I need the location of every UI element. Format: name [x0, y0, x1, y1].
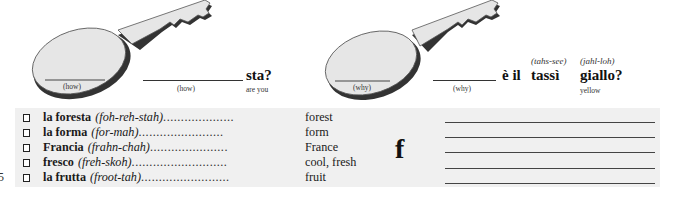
page-number: 5 — [0, 170, 4, 185]
vocab-pron: (frahn-chah) — [88, 140, 150, 155]
word-tassi: tassì — [531, 67, 559, 84]
key-label-right: (why) — [353, 83, 371, 92]
vocab-word: fresco — [43, 155, 74, 170]
vocab-meaning: cool, fresh — [305, 155, 356, 170]
leader-dots: ........................... — [132, 155, 228, 170]
vocab-meaning: fruit — [305, 170, 326, 185]
word-giallo: giallo? — [580, 67, 623, 84]
vocab-row: Francia (frahn-chah) ...................… — [23, 140, 228, 155]
vocab-word: Francia — [43, 140, 84, 155]
vocab-word: la forma — [43, 125, 87, 140]
blank-hint-right: (why) — [453, 84, 471, 93]
practice-line[interactable] — [445, 152, 655, 153]
practice-line[interactable] — [445, 122, 655, 123]
answer-blank-left[interactable] — [143, 80, 243, 81]
translation-yellow: yellow — [580, 86, 600, 95]
pron-tassi: (tahs-see) — [531, 56, 567, 66]
vocab-word: la foresta — [43, 110, 91, 125]
checkbox[interactable] — [23, 114, 30, 122]
leader-dots: ...................... — [150, 140, 228, 155]
key-illustration-right — [320, 0, 520, 100]
answer-blank-right[interactable] — [433, 80, 496, 81]
vocab-row: la foresta (foh-reh-stah) ..............… — [23, 110, 234, 125]
key-label-left: (how) — [63, 82, 81, 91]
vocab-pron: (foh-reh-stah) — [95, 110, 163, 125]
checkbox[interactable] — [23, 144, 30, 152]
vocab-word: la frutta — [43, 170, 86, 185]
key-illustration-left — [0, 0, 230, 100]
blank-hint-left: (how) — [177, 84, 195, 93]
practice-line[interactable] — [445, 183, 655, 184]
translation-are-you: are you — [246, 85, 268, 94]
vocab-meaning: France — [305, 140, 338, 155]
leader-dots: ......................... — [141, 170, 230, 185]
leader-dots: .................... — [163, 110, 234, 125]
practice-line[interactable] — [445, 137, 655, 138]
vocab-pron: (froot-tah) — [90, 170, 141, 185]
leader-dots: ........................ — [139, 125, 224, 140]
vocab-pron: (for-mah) — [91, 125, 138, 140]
pron-giallo: (jahl-loh) — [580, 56, 615, 66]
section-letter: f — [395, 133, 404, 165]
vocab-row: la forma (for-mah) .....................… — [23, 125, 224, 140]
question-word-sta: sta? — [246, 67, 272, 84]
checkbox[interactable] — [23, 129, 30, 137]
checkbox[interactable] — [23, 159, 30, 167]
checkbox[interactable] — [23, 174, 30, 182]
vocabulary-box: la foresta (foh-reh-stah) ..............… — [15, 108, 660, 187]
vocab-pron: (freh-skoh) — [78, 155, 132, 170]
phrase-e-il: è il — [502, 67, 521, 84]
vocab-row: la frutta (froot-tah) ..................… — [23, 170, 230, 185]
vocab-row: fresco (freh-skoh) .....................… — [23, 155, 227, 170]
vocab-meaning: form — [305, 125, 329, 140]
vocab-meaning: forest — [305, 110, 333, 125]
practice-line[interactable] — [445, 168, 655, 169]
